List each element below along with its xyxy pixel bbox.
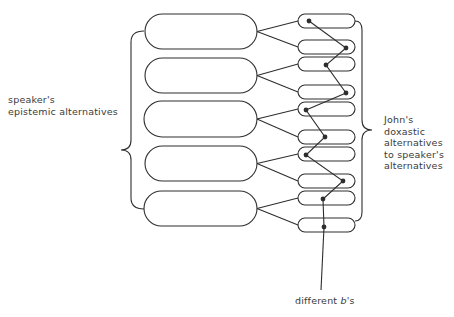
right-label-line-3: alternatives (384, 137, 444, 149)
left-label-line-2: epistemic alternatives (8, 106, 118, 118)
connector-line (257, 198, 298, 209)
right-label-line-5: alternatives (384, 160, 444, 172)
individual-dot (304, 108, 309, 113)
connector-line (257, 209, 298, 226)
individual-b-path (306, 21, 346, 227)
doxastic-alternative-pill (298, 218, 355, 232)
connector-line (257, 154, 298, 164)
epistemic-alternative-pill (144, 101, 257, 137)
individual-dot (344, 46, 349, 51)
connector-line (257, 76, 298, 93)
epistemic-alternative-pill (145, 146, 257, 181)
left-label-line-1: speaker's (8, 94, 118, 106)
individual-dot (324, 63, 329, 68)
right-brace (355, 21, 372, 221)
bottom-label-suffix: 's (347, 295, 355, 306)
epistemic-alternative-pill (145, 14, 257, 49)
individual-dot (307, 19, 312, 24)
right-label-line-4: to speaker's (384, 149, 444, 161)
connector-line (257, 119, 298, 137)
individual-dot (323, 135, 328, 140)
connector-line (257, 64, 298, 76)
connector-line (257, 109, 298, 119)
speaker-epistemic-alternatives-label: speaker's epistemic alternatives (8, 94, 118, 117)
doxastic-alternative-pill (298, 191, 355, 205)
doxastic-alternative-pill (298, 174, 355, 188)
individual-dot (344, 91, 349, 96)
connector-line (257, 164, 298, 182)
bottom-label-text: different (295, 295, 337, 306)
different-bs-label: different b's (295, 295, 355, 307)
left-brace (121, 31, 144, 209)
doxastic-alternative-pill (298, 14, 355, 28)
john-doxastic-alternatives-label: John's doxastic alternatives to speaker'… (384, 114, 444, 172)
right-label-line-2: doxastic (384, 126, 444, 138)
right-label-line-1: John's (384, 114, 444, 126)
individual-dot (321, 197, 326, 202)
connector-line (257, 21, 298, 32)
pointer-line (321, 227, 324, 290)
epistemic-alternative-pill (144, 191, 257, 226)
individual-dot (341, 179, 346, 184)
connector-line (257, 32, 298, 48)
individual-dot (304, 153, 309, 158)
epistemic-alternative-pill (145, 58, 257, 93)
